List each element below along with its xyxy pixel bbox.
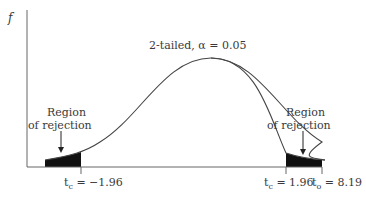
right-arrow-icon <box>300 131 306 155</box>
right-region-label-2: of rejection <box>267 120 331 132</box>
chart-title: 2-tailed, α = 0.05 <box>149 40 246 52</box>
left-region-label-2: of rejection <box>28 120 92 132</box>
value: = 1.96 <box>273 176 314 189</box>
y-axis-label: f <box>8 12 12 24</box>
left-arrow-icon <box>58 131 64 153</box>
distribution-diagram <box>0 0 366 199</box>
left-critical-label: tc = −1.96 <box>64 177 123 193</box>
value: = −1.96 <box>73 176 123 189</box>
right-critical-label: tc = 1.96 <box>264 177 314 193</box>
observed-label: to = 8.19 <box>312 177 362 193</box>
value: = 8.19 <box>321 176 362 189</box>
left-region-label-1: Region <box>47 107 86 119</box>
right-region-label-1: Region <box>286 107 325 119</box>
